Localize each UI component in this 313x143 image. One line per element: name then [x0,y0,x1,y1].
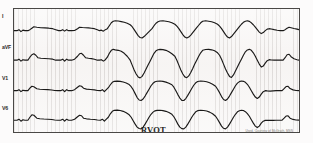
lead-label-aVF: aVF [2,45,11,50]
ecg-trace-svg [14,9,299,132]
ecg-trace-lead-V1 [14,81,299,100]
lead-label-I: I [2,14,3,19]
ecg-recording-panel: RVOT Used, Courtesy of McGrath, MSN [13,8,300,133]
ecg-figure: RVOT Used, Courtesy of McGrath, MSN I aV… [0,0,313,143]
rvot-annotation-label: RVOT [141,126,166,133]
lead-label-V6: V6 [2,106,8,111]
ecg-trace-lead-aVF [14,49,299,78]
ecg-trace-group [14,21,299,129]
ecg-trace-lead-I [14,21,299,38]
ecg-trace-layer [14,9,299,132]
lead-label-V1: V1 [2,76,8,81]
attribution-caption: Used, Courtesy of McGrath, MSN [245,130,293,133]
